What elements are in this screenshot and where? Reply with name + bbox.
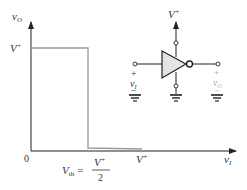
output-terminal [216, 62, 220, 66]
inverter-circuit: V+ [129, 8, 223, 101]
x-vplus-label: V+ [136, 153, 148, 165]
input-terminal [133, 62, 137, 66]
ground-icon [170, 95, 182, 101]
vth-numerator: V+ [94, 156, 106, 168]
x-axis-label: vI [224, 153, 232, 167]
vth-denominator: 2 [98, 172, 103, 183]
vth-label: Vth= [62, 164, 83, 178]
origin-label: 0 [24, 153, 29, 164]
transfer-curve [31, 48, 142, 149]
supply-node [174, 41, 178, 45]
ground-node [174, 84, 178, 88]
output-minus: − [214, 85, 219, 95]
y-axis-label: vO [12, 10, 22, 24]
inverter-bubble [187, 61, 193, 67]
inverter-triangle [162, 51, 186, 78]
input-minus: − [131, 85, 137, 96]
y-high-label: V+ [10, 42, 22, 54]
supply-label: V+ [168, 8, 180, 20]
output-plus: + [214, 67, 219, 77]
vtc-diagram: vO V+ 0 Vth= V+ 2 V+ vI V+ [0, 0, 247, 190]
ground-icon [211, 95, 223, 101]
